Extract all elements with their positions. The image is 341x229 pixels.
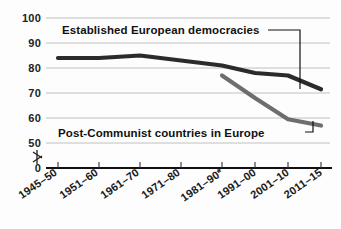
x-tick-label-4: 1981–90* — [178, 166, 225, 204]
series-line-established-european-democracies — [58, 56, 321, 90]
y-tick-label-0: 0 — [35, 162, 41, 174]
x-tick-label-2: 1961–70 — [98, 166, 141, 201]
x-tick-label-3: 1971–80 — [139, 166, 182, 201]
data-series-group — [58, 56, 321, 126]
series-label-established: Established European democracies — [62, 24, 260, 36]
gridlines — [46, 18, 330, 143]
y-tick-label-90: 90 — [28, 37, 41, 49]
line-chart: 100 90 80 70 60 50 0 1 — [0, 0, 341, 229]
y-tick-label-80: 80 — [28, 62, 41, 74]
y-tick-label-60: 60 — [28, 112, 41, 124]
y-tick-label-50: 50 — [28, 137, 41, 149]
x-tick-label-1: 1951–60 — [57, 166, 100, 201]
y-axis-labels: 100 90 80 70 60 50 0 — [22, 12, 41, 174]
x-axis-labels: 1945–50 1951–60 1961–70 1971–80 1981–90*… — [16, 166, 324, 204]
chart-container: 100 90 80 70 60 50 0 1 — [0, 0, 341, 229]
series-label-postcommunist: Post-Communist countries in Europe — [58, 127, 265, 139]
y-tick-label-100: 100 — [22, 12, 41, 24]
y-tick-label-70: 70 — [28, 87, 41, 99]
